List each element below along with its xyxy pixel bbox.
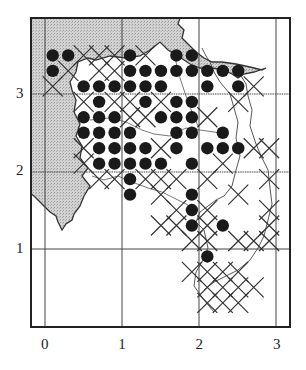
dot-marker xyxy=(186,65,198,77)
dot-marker xyxy=(77,80,89,92)
dot-marker xyxy=(108,157,120,169)
cross-marker xyxy=(228,92,248,112)
dot-marker xyxy=(124,157,136,169)
dot-marker xyxy=(155,157,167,169)
y-tick-label: 3 xyxy=(16,85,24,102)
coast-line xyxy=(204,74,272,290)
dot-marker xyxy=(108,142,120,154)
cross-marker xyxy=(151,138,171,158)
cross-marker xyxy=(197,293,217,313)
dot-marker xyxy=(139,157,151,169)
x-tick-label: 3 xyxy=(273,336,281,353)
dot-marker xyxy=(170,111,182,123)
y-tick-label: 1 xyxy=(16,240,24,257)
cross-marker xyxy=(197,107,217,127)
dot-marker xyxy=(217,127,229,139)
dot-marker xyxy=(232,65,244,77)
x-tick-label: 0 xyxy=(41,336,49,353)
dot-marker xyxy=(108,111,120,123)
cross-marker xyxy=(228,231,248,251)
cross-marker xyxy=(151,216,171,236)
cross-marker xyxy=(89,61,109,81)
cross-marker xyxy=(74,92,94,112)
dot-marker xyxy=(201,250,213,262)
dot-marker xyxy=(62,49,74,61)
dot-marker xyxy=(124,80,136,92)
dot-marker xyxy=(124,188,136,200)
dot-marker xyxy=(232,142,244,154)
dot-marker xyxy=(186,49,198,61)
dot-marker xyxy=(108,80,120,92)
dot-marker xyxy=(217,219,229,231)
dot-marker xyxy=(170,142,182,154)
dot-marker xyxy=(77,111,89,123)
dot-marker xyxy=(155,65,167,77)
dot-marker xyxy=(155,80,167,92)
dot-marker xyxy=(201,142,213,154)
cross-marker xyxy=(197,200,217,220)
dot-marker xyxy=(93,157,105,169)
dot-marker xyxy=(139,80,151,92)
dot-marker xyxy=(170,96,182,108)
y-tick-label: 2 xyxy=(16,162,24,179)
dot-marker xyxy=(186,219,198,231)
dot-marker xyxy=(124,142,136,154)
dot-marker xyxy=(93,127,105,139)
cross-marker xyxy=(197,169,217,189)
dot-marker xyxy=(201,80,213,92)
dot-marker xyxy=(217,65,229,77)
dot-marker xyxy=(186,157,198,169)
dot-marker xyxy=(186,111,198,123)
dot-marker xyxy=(93,80,105,92)
dot-marker xyxy=(170,49,182,61)
cross-marker xyxy=(244,231,264,251)
distribution-map xyxy=(0,0,306,370)
dot-marker xyxy=(93,96,105,108)
dot-marker xyxy=(47,65,59,77)
cross-marker xyxy=(244,138,264,158)
cross-marker xyxy=(213,293,233,313)
cross-marker xyxy=(228,293,248,313)
dot-marker xyxy=(139,142,151,154)
dot-marker xyxy=(201,65,213,77)
dot-marker xyxy=(93,111,105,123)
dot-marker xyxy=(232,80,244,92)
dot-marker xyxy=(186,188,198,200)
dot-marker xyxy=(124,127,136,139)
dot-marker xyxy=(139,96,151,108)
dot-marker xyxy=(139,65,151,77)
dot-marker xyxy=(217,142,229,154)
dot-marker xyxy=(47,49,59,61)
x-tick-label: 1 xyxy=(118,336,126,353)
cross-marker xyxy=(228,185,248,205)
dot-marker xyxy=(170,65,182,77)
dot-marker xyxy=(124,173,136,185)
cross-marker xyxy=(135,107,155,127)
dot-marker xyxy=(108,127,120,139)
dot-marker xyxy=(124,65,136,77)
dot-marker xyxy=(170,127,182,139)
dot-marker xyxy=(124,49,136,61)
dot-marker xyxy=(77,127,89,139)
x-tick-label: 2 xyxy=(196,336,204,353)
dot-marker xyxy=(93,142,105,154)
dot-marker xyxy=(186,127,198,139)
dot-marker xyxy=(186,96,198,108)
dot-marker xyxy=(155,111,167,123)
cross-marker xyxy=(197,231,217,251)
dot-marker xyxy=(186,204,198,216)
